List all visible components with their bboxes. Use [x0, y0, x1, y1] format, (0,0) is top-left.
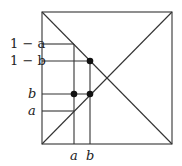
point-b-b — [87, 91, 94, 98]
label-1-minus-b: 1 − b — [10, 53, 46, 68]
label-a-bottom: a — [70, 148, 78, 163]
label-b-left: b — [28, 86, 36, 101]
label-b-bottom: b — [86, 148, 94, 163]
diagram: 1 − a 1 − b b a a b — [0, 0, 182, 166]
point-b-1-minus-b — [87, 58, 94, 65]
label-1-minus-a: 1 − a — [10, 36, 45, 51]
point-a-b — [71, 91, 78, 98]
label-a-left: a — [28, 103, 36, 118]
